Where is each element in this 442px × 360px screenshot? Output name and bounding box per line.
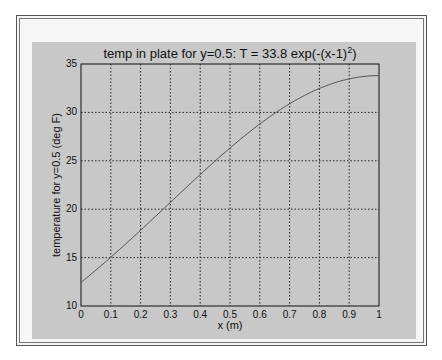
grid-lines bbox=[81, 64, 379, 306]
x-tick-label: 0.6 bbox=[253, 309, 267, 320]
y-axis-ticks: 101520253035 bbox=[66, 58, 78, 311]
y-tick-label: 10 bbox=[66, 300, 78, 311]
x-tick-label: 0.4 bbox=[193, 309, 207, 320]
y-tick-label: 15 bbox=[66, 252, 78, 263]
x-tick-label: 0 bbox=[78, 309, 84, 320]
y-tick-label: 35 bbox=[66, 58, 78, 69]
x-tick-label: 0.1 bbox=[104, 309, 118, 320]
y-tick-label: 25 bbox=[66, 155, 78, 166]
y-tick-label: 20 bbox=[66, 203, 78, 214]
y-tick-label: 30 bbox=[66, 106, 78, 117]
chart-title: temp in plate for y=0.5: T = 33.8 exp(-(… bbox=[103, 45, 356, 61]
x-tick-label: 0.8 bbox=[312, 309, 326, 320]
x-axis-label: x (m) bbox=[217, 319, 242, 331]
y-axis-label: temperature for y=0.5 (deg F) bbox=[50, 113, 62, 257]
x-tick-label: 0.7 bbox=[283, 309, 297, 320]
x-tick-label: 0.2 bbox=[134, 309, 148, 320]
x-tick-label: 1 bbox=[376, 309, 382, 320]
chart: 00.10.20.30.40.50.60.70.80.91 1015202530… bbox=[0, 0, 442, 360]
x-tick-label: 0.9 bbox=[342, 309, 356, 320]
x-tick-label: 0.3 bbox=[163, 309, 177, 320]
